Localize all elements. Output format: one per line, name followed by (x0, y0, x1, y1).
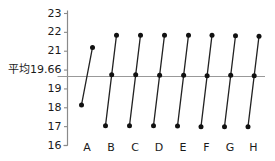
x-tick-label-g: G (220, 142, 240, 153)
y-tick-label-18: 18 (48, 102, 62, 113)
x-tick-label-c: C (125, 142, 145, 153)
y-tick-label-17: 17 (48, 121, 62, 132)
y-tick-label-23: 23 (48, 8, 62, 19)
mean-line-label: 平均19.66 (8, 64, 62, 75)
x-tick-label-a: A (77, 142, 97, 153)
chart-container: 16171819212223 ABCDEFGH 平均19.66 (0, 0, 275, 161)
axis-group (64, 11, 68, 146)
x-tick-label-e: E (173, 142, 193, 153)
series-group (79, 33, 262, 129)
x-tick-label-f: F (197, 142, 217, 153)
x-tick-label-h: H (244, 142, 264, 153)
x-tick-label-d: D (149, 142, 169, 153)
y-tick-label-16: 16 (48, 140, 62, 151)
chart-plot-area (0, 0, 275, 161)
y-tick-label-22: 22 (48, 26, 62, 37)
y-tick-label-21: 21 (48, 45, 62, 56)
y-tick-label-19: 19 (48, 83, 62, 94)
x-tick-label-b: B (101, 142, 121, 153)
